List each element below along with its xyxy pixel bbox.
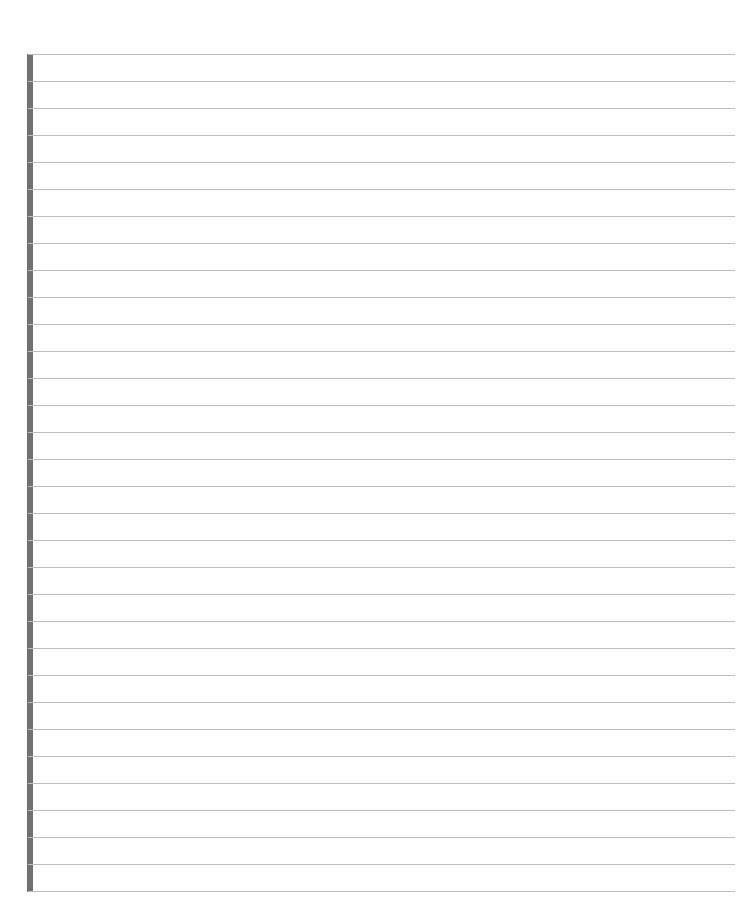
ruled-line [28,648,735,649]
ruled-line [28,243,735,244]
ruled-line [28,81,735,82]
ruled-line [28,378,735,379]
ruled-line [28,540,735,541]
ruled-line [28,459,735,460]
ruled-line [28,864,735,865]
ruled-line [28,729,735,730]
ruled-line [28,513,735,514]
ruled-line [28,702,735,703]
lined-paper-sheet [0,0,740,920]
ruled-line [28,108,735,109]
ruled-line [28,216,735,217]
ruled-line [28,756,735,757]
ruled-line [28,621,735,622]
ruled-line [28,567,735,568]
ruled-line [28,405,735,406]
ruled-line [28,891,735,892]
ruled-line [28,810,735,811]
ruled-line [28,189,735,190]
ruled-line [28,297,735,298]
ruled-line [28,270,735,271]
ruled-line [28,54,735,55]
ruled-line [28,594,735,595]
ruled-line [28,837,735,838]
ruled-line [28,135,735,136]
ruled-line [28,675,735,676]
ruled-line [28,351,735,352]
ruled-line [28,432,735,433]
ruled-line [28,783,735,784]
ruled-line [28,324,735,325]
ruled-line [28,486,735,487]
left-margin-bar [27,54,33,892]
ruled-line [28,162,735,163]
